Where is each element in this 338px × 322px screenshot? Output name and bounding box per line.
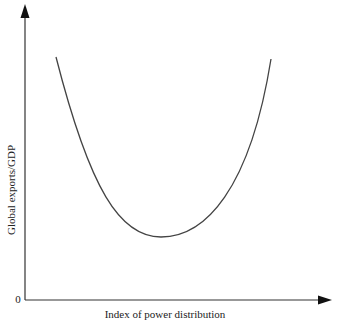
x-axis-label: Index of power distribution [105, 308, 226, 320]
chart: 0 Index of power distribution Global exp… [0, 0, 338, 322]
u-curve [56, 57, 271, 237]
y-axis-label: Global exports/GDP [5, 145, 17, 235]
x-axis-arrow-icon [318, 296, 332, 305]
y-axis-arrow-icon [21, 4, 30, 18]
origin-label: 0 [15, 293, 21, 305]
